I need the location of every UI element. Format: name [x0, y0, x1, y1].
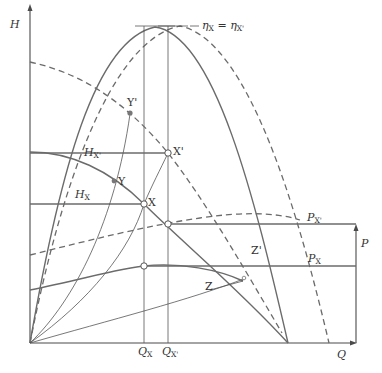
head-curve-dashed [30, 62, 282, 333]
label-px-prime: PX' [306, 211, 322, 225]
point-px [141, 263, 147, 269]
q-axis-label: Q [337, 348, 346, 361]
point-x-prime [165, 150, 171, 156]
efficiency-curve-dashed [30, 26, 329, 343]
point-y-prime [127, 110, 132, 115]
label-x-prime: X' [173, 145, 184, 158]
affinity-parabola-y [30, 114, 130, 343]
label-qx: QX [138, 345, 153, 359]
p-axis-arrow-icon [354, 224, 359, 231]
label-z-prime: Z' [251, 244, 262, 257]
point-y [112, 179, 117, 184]
h-axis-label: H [9, 18, 20, 31]
head-curve-solid [30, 152, 288, 343]
point-px-prime [165, 221, 171, 227]
label-x: X [148, 196, 156, 209]
pump-characteristic-diagram: H Q P ηX = ηX' X' X Y Y' Z Z' HX' [0, 0, 382, 373]
label-hx: HX [74, 188, 91, 202]
point-z-prime [242, 276, 246, 280]
p-axis-label: P [360, 237, 369, 250]
affinity-parabola-x [30, 153, 168, 343]
label-px: PX [307, 252, 321, 266]
label-hx-prime: HX' [83, 146, 101, 160]
affinity-parabola-z [30, 278, 246, 343]
label-z: Z [205, 280, 213, 293]
efficiency-equality-label: ηX = ηX' [202, 19, 244, 33]
z-prime-line [210, 281, 243, 290]
label-y: Y [117, 175, 126, 188]
label-y-prime: Y' [126, 96, 137, 109]
label-qx-prime: QX' [162, 345, 178, 359]
point-x [141, 201, 147, 207]
h-axis-arrow-icon [28, 4, 33, 11]
